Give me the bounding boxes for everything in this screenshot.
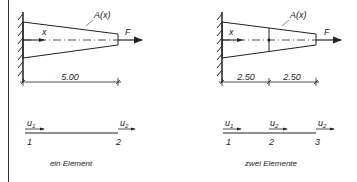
caption: ein Element: [50, 159, 93, 168]
dimension-label: 5.00: [61, 72, 79, 82]
node-label-2: 2: [115, 137, 121, 147]
fixed-support-icon: [217, 12, 222, 82]
dof-label-u2: u2: [120, 118, 129, 129]
fixed-support-icon: [18, 12, 23, 82]
dimension-label-1: 2.50: [236, 72, 255, 82]
dof-label-3: u2: [318, 118, 327, 129]
dof-label-2: u2: [270, 118, 279, 129]
fem-diagram: x F A(x) 5.00 u1 u2 1 2 ein Element: [0, 0, 357, 182]
force-label: F: [324, 27, 330, 37]
right-beam-figure: x F A(x) 2.50 2.50 u1 u2 u2 1 2 3 zwei E…: [217, 10, 341, 168]
dof-label-1: u1: [225, 118, 233, 129]
axis-label: x: [41, 27, 47, 37]
force-label: F: [125, 27, 131, 37]
node-label-1: 1: [27, 137, 32, 147]
area-leader: [86, 20, 93, 26]
axis-label: x: [228, 27, 234, 37]
node-label-1: 1: [226, 137, 231, 147]
area-leader: [282, 20, 289, 26]
dimension-label-2: 2.50: [282, 72, 301, 82]
node-label-2: 2: [268, 137, 274, 147]
area-label: A(x): [93, 10, 111, 20]
caption: zwei Elemente: [244, 159, 298, 168]
area-label: A(x): [289, 10, 307, 20]
dof-label-u1: u1: [27, 118, 35, 129]
dimension-line: [219, 78, 319, 86]
node-label-3: 3: [315, 137, 320, 147]
left-beam-figure: x F A(x) 5.00 u1 u2 1 2 ein Element: [18, 10, 142, 168]
